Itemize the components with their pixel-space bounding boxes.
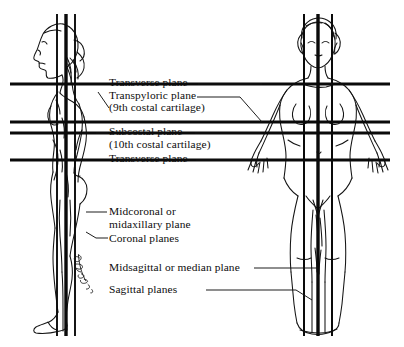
label-transpyloric-plane-sub: (9th costal cartilage): [109, 101, 205, 113]
figure-canvas: [0, 0, 404, 347]
label-subcostal-plane: Subcostal plane: [109, 125, 182, 137]
label-transverse-plane-upper: Transverse plane: [109, 76, 188, 88]
label-midcoronal-plane-sub: midaxillary plane: [109, 218, 191, 231]
label-midcoronal-plane: Midcoronal or: [109, 205, 176, 218]
label-coronal-planes: Coronal planes: [109, 232, 179, 244]
label-transverse-plane-lower: Transverse plane: [109, 152, 188, 164]
anatomical-planes-figure: Transverse plane Transpyloric plane (9th…: [0, 0, 404, 347]
label-midsagittal-plane: Midsagittal or median plane: [109, 261, 240, 273]
label-subcostal-plane-sub: (10th costal cartilage): [109, 138, 211, 150]
label-transpyloric-plane: Transpyloric plane: [109, 89, 196, 101]
figure-background: [0, 0, 404, 347]
label-sagittal-planes: Sagittal planes: [109, 283, 177, 295]
